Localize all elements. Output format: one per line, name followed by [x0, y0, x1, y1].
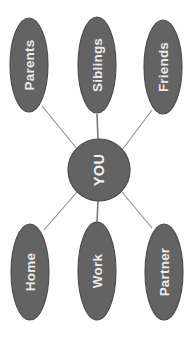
node-work[interactable]: Work	[78, 222, 116, 320]
node-work-label: Work	[90, 254, 105, 289]
connector-hub-home	[44, 192, 77, 230]
connector-hub-partner	[122, 192, 152, 228]
node-hub-label: YOU	[91, 154, 107, 187]
node-home-label: Home	[23, 253, 38, 292]
node-partner-label: Partner	[157, 247, 172, 296]
node-friends-label: Friends	[156, 42, 171, 92]
node-home[interactable]: Home	[11, 224, 49, 320]
node-friends[interactable]: Friends	[144, 20, 182, 114]
node-parents-label: Parents	[22, 40, 37, 91]
node-siblings[interactable]: Siblings	[78, 17, 116, 113]
connector-hub-parents	[42, 106, 78, 150]
node-partner[interactable]: Partner	[145, 224, 183, 320]
node-hub-you[interactable]: YOU	[68, 139, 130, 201]
node-parents[interactable]: Parents	[10, 18, 48, 112]
diagram-canvas: Parents Siblings Friends YOU Home Work P…	[0, 0, 195, 339]
node-siblings-label: Siblings	[90, 38, 105, 92]
mind-map-diagram: Parents Siblings Friends YOU Home Work P…	[0, 0, 195, 339]
connector-hub-siblings	[97, 114, 98, 139]
connector-hub-friends	[122, 110, 152, 150]
connector-hub-work	[97, 201, 98, 222]
